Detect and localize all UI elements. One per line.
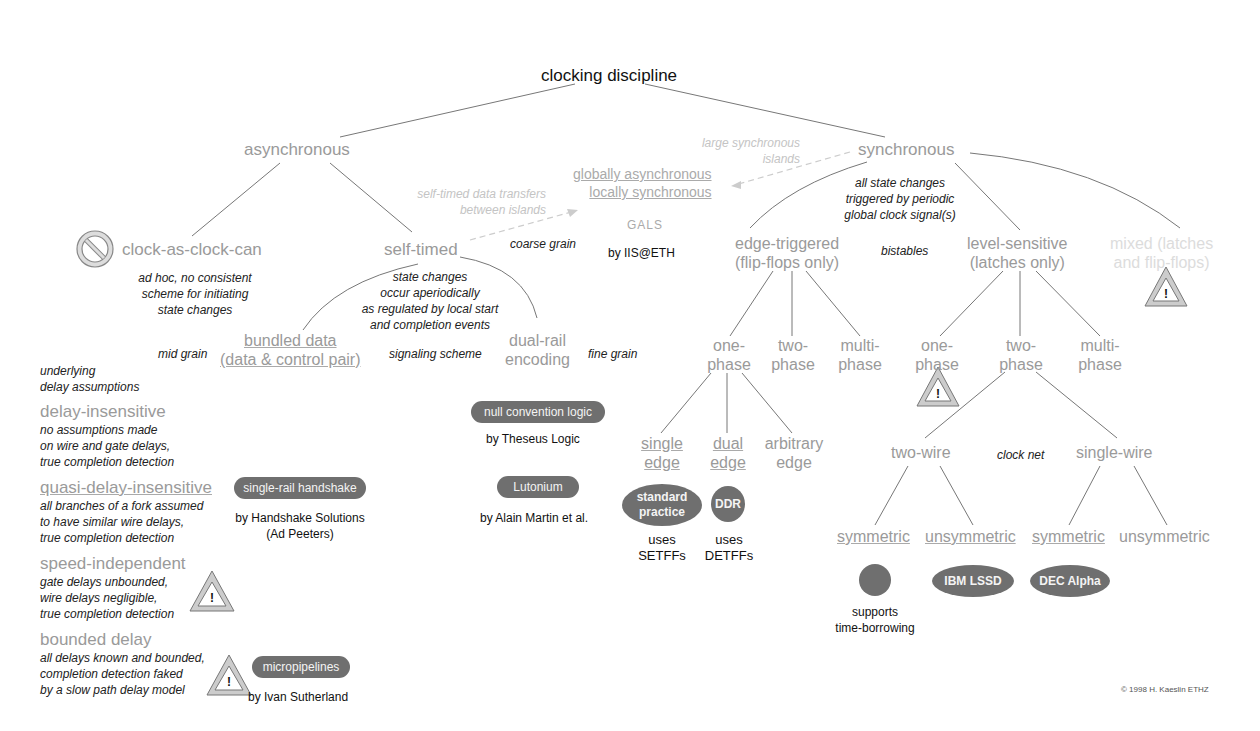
forbidden-icon — [77, 231, 113, 267]
synchronous-note: all state changestriggered by periodicgl… — [810, 175, 990, 223]
self-timed-note: state changesoccur aperiodicallyas regul… — [340, 269, 520, 333]
self-timed-transfers-note: self-timed data transfersbetween islands — [396, 186, 546, 218]
gals-abbr: GALS — [627, 219, 663, 231]
coarse-grain-label: coarse grain — [510, 236, 576, 252]
leaf-single-wire-symmetric: symmetric — [1032, 529, 1105, 545]
delay-model-bounded-delay: bounded delay all delays known and bound… — [40, 631, 205, 698]
node-edge-two-phase: two-phase — [768, 336, 818, 374]
node-single-edge: singleedge — [640, 434, 684, 472]
warning-icon: ! — [190, 571, 234, 611]
node-edge-triggered: edge-triggered(flip-flops only) — [735, 234, 839, 272]
node-self-timed: self-timed — [384, 241, 458, 258]
gals-by: by IIS@ETH — [608, 245, 675, 261]
clock-as-clock-can-note: ad hoc, no consistentscheme for initiati… — [130, 270, 260, 318]
node-dual-edge: dualedge — [706, 434, 750, 472]
time-borrowing-note: supportstime-borrowing — [832, 604, 918, 636]
leaf-two-wire-unsymmetric: unsymmetric — [925, 529, 1016, 545]
mid-grain-label: mid grain — [158, 346, 207, 362]
node-edge-multi-phase: multi-phase — [833, 336, 887, 374]
delay-model-delay-insensitive: delay-insensitive no assumptions madeon … — [40, 403, 174, 470]
large-islands-note: large synchronousislands — [660, 135, 800, 167]
uses-setffs: usesSETFFs — [637, 532, 687, 564]
ibm-lssd-badge: IBM LSSD — [932, 565, 1014, 597]
example-micropipelines: micropipelines — [252, 656, 350, 678]
bistables-label: bistables — [881, 243, 928, 259]
example-null-convention-logic: null convention logic — [471, 401, 605, 423]
warning-icon: ! — [1145, 267, 1187, 306]
handshake-by: by Handshake Solutions(Ad Peeters) — [230, 510, 370, 542]
leaf-single-wire-unsymmetric: unsymmetric — [1119, 529, 1210, 545]
svg-text:!: ! — [227, 675, 231, 689]
micropipelines-by: by Ivan Sutherland — [248, 689, 348, 705]
node-level-sensitive: level-sensitive(latches only) — [967, 234, 1067, 272]
ddr-badge: DDR — [711, 486, 745, 522]
node-synchronous: synchronous — [858, 141, 954, 158]
leaf-two-wire-symmetric: symmetric — [837, 529, 910, 545]
time-borrowing-dot — [859, 564, 891, 596]
standard-practice-badge: standardpractice — [622, 484, 702, 526]
node-two-wire: two-wire — [891, 445, 951, 461]
node-mixed: mixed (latchesand flip-flops) — [1110, 234, 1213, 272]
tree-edges: ! ! ! ! — [0, 0, 1260, 731]
fine-grain-label: fine grain — [588, 346, 637, 362]
lutonium-by: by Alain Martin et al. — [480, 510, 588, 526]
svg-text:!: ! — [210, 591, 214, 605]
node-asynchronous: asynchronous — [244, 141, 350, 158]
node-arbitrary-edge: arbitraryedge — [762, 434, 826, 472]
node-level-multi-phase: multi-phase — [1073, 336, 1127, 374]
example-single-rail-handshake: single-rail handshake — [234, 477, 366, 499]
delay-model-speed-independent: speed-independent gate delays unbounded,… — [40, 555, 186, 622]
delay-assumptions-header: underlyingdelay assumptions — [40, 363, 139, 395]
warning-icon: ! — [207, 655, 251, 695]
node-single-wire: single-wire — [1076, 445, 1152, 461]
ncl-by: by Theseus Logic — [486, 431, 580, 447]
diagram-title: clocking discipline — [541, 67, 677, 84]
node-bundled-data: bundled data(data & control pair) — [220, 331, 361, 369]
clock-net-label: clock net — [997, 447, 1044, 463]
node-dual-rail-encoding: dual-railencoding — [505, 331, 570, 369]
clocking-discipline-diagram: ! ! ! ! clocking discipline asynchronous… — [0, 0, 1260, 731]
node-edge-one-phase: one-phase — [704, 336, 754, 374]
svg-text:!: ! — [1164, 287, 1168, 301]
uses-detffs: usesDETFFs — [704, 532, 754, 564]
node-clock-as-clock-can: clock-as-clock-can — [122, 241, 262, 258]
node-level-one-phase: one-phase — [912, 336, 962, 374]
signaling-scheme-label: signaling scheme — [389, 346, 482, 362]
dec-alpha-badge: DEC Alpha — [1030, 565, 1110, 597]
delay-model-quasi-delay-insensitive: quasi-delay-insensitive all branches of … — [40, 479, 212, 546]
svg-text:!: ! — [936, 387, 940, 401]
node-gals: globally asynchronouslocally synchronous — [573, 165, 712, 201]
node-level-two-phase: two-phase — [996, 336, 1046, 374]
copyright: © 1998 H. Kaeslin ETHZ — [1121, 686, 1209, 694]
example-lutonium: Lutonium — [497, 476, 579, 498]
